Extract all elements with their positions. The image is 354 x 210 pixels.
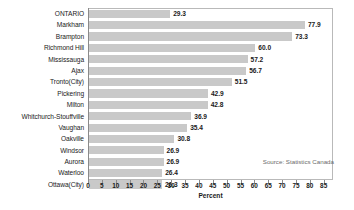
category-label: Whitchurch-Stouffville [0, 111, 84, 122]
category-label: Ajax [0, 65, 84, 76]
category-label: Tronto(City) [0, 76, 84, 87]
bar-value-label: 42.9 [211, 88, 224, 99]
bar-row: Richmond Hill60.0 [0, 42, 354, 53]
bar-row: Whitchurch-Stouffville36.9 [0, 111, 354, 122]
bar [89, 21, 305, 29]
source-note: Source: Statistics Canada [263, 158, 334, 165]
x-axis-title: Percent [88, 192, 333, 199]
bar [89, 89, 208, 97]
bar [89, 32, 292, 40]
bar-value-label: 26.9 [167, 145, 180, 156]
bar-value-label: 29.3 [173, 8, 186, 19]
bar [89, 135, 174, 143]
bar [89, 44, 255, 52]
bar [89, 158, 164, 166]
bar [89, 169, 162, 177]
bar-row: Tronto(City)51.5 [0, 76, 354, 87]
bar [89, 112, 191, 120]
category-label: Windsor [0, 145, 84, 156]
bar-row: Markham77.9 [0, 19, 354, 30]
bar-rows: ONTARIO29.3Markham77.9Brampton73.3Richmo… [0, 8, 354, 180]
category-label: Milton [0, 99, 84, 110]
bar-value-label: 26.4 [165, 167, 178, 178]
bar-value-label: 35.4 [190, 122, 203, 133]
bar [89, 78, 232, 86]
category-label: Mississauga [0, 54, 84, 65]
bar-row: Mississauga57.2 [0, 54, 354, 65]
bar-chart: ONTARIO29.3Markham77.9Brampton73.3Richmo… [0, 0, 354, 210]
category-label: Markham [0, 19, 84, 30]
bar-row: ONTARIO29.3 [0, 8, 354, 19]
bar-row: Windsor26.9 [0, 145, 354, 156]
bar-value-label: 77.9 [308, 19, 321, 30]
bar-row: Waterloo26.4 [0, 167, 354, 178]
category-label: Richmond Hill [0, 42, 84, 53]
bar-row: Oakville30.8 [0, 133, 354, 144]
bar [89, 146, 164, 154]
bar-row: Milton42.8 [0, 99, 354, 110]
bar-row: Ajax56.7 [0, 65, 354, 76]
bar-value-label: 51.5 [235, 76, 248, 87]
bar [89, 124, 187, 132]
bar-value-label: 42.8 [211, 99, 224, 110]
bar-value-label: 73.3 [295, 31, 308, 42]
category-label: Oakville [0, 133, 84, 144]
category-label: Vaughan [0, 122, 84, 133]
category-label: Waterloo [0, 167, 84, 178]
bar [89, 10, 170, 18]
category-label: Brampton [0, 31, 84, 42]
category-label: Aurora [0, 156, 84, 167]
category-label: Ottawa(City) [0, 179, 84, 190]
category-label: Pickering [0, 88, 84, 99]
bar-value-label: 60.0 [258, 42, 271, 53]
bar-value-label: 30.8 [177, 133, 190, 144]
bar [89, 101, 208, 109]
bar-row: Brampton73.3 [0, 31, 354, 42]
bar-value-label: 57.2 [251, 54, 264, 65]
bar-row: Vaughan35.4 [0, 122, 354, 133]
bar-value-label: 26.9 [167, 156, 180, 167]
bar-value-label: 56.7 [249, 65, 262, 76]
bar-value-label: 36.9 [194, 111, 207, 122]
x-axis-tick-label: 85 [314, 181, 334, 190]
bar-row: Pickering42.9 [0, 88, 354, 99]
bar [89, 55, 248, 63]
category-label: ONTARIO [0, 8, 84, 19]
bar [89, 67, 246, 75]
